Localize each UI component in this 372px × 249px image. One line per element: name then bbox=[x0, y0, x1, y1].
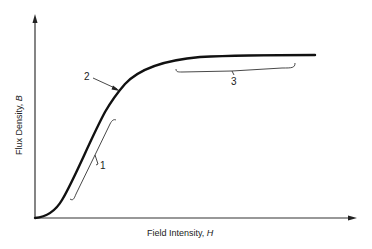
bh-curve-diagram: 1 2 3 Field Intensity, H Flux Density, B bbox=[0, 0, 372, 249]
annotation-3: 3 bbox=[231, 76, 237, 87]
bracket-linear-region bbox=[70, 120, 116, 200]
knee-arrow-icon bbox=[112, 86, 121, 92]
x-axis-arrow-icon bbox=[348, 216, 357, 221]
y-axis-label: Flux Density, B bbox=[14, 95, 24, 155]
bh-curve bbox=[35, 55, 315, 218]
annotation-1: 1 bbox=[100, 160, 106, 171]
x-axis-label: Field Intensity, H bbox=[147, 228, 214, 238]
bracket-linear-tip bbox=[95, 155, 98, 165]
y-axis-arrow-icon bbox=[33, 14, 38, 23]
bracket-saturation-region bbox=[176, 63, 295, 72]
bracket-saturation-tip bbox=[232, 71, 234, 75]
annotation-2: 2 bbox=[84, 71, 90, 82]
